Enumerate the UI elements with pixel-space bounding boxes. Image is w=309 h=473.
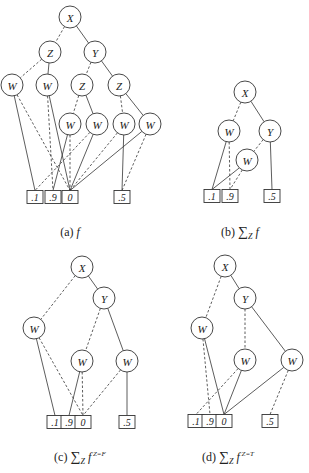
variable-node-z: Z xyxy=(108,74,130,96)
terminal-value: .1 xyxy=(192,416,200,427)
terminal-value-box: .5 xyxy=(264,190,280,203)
false-branch-edge xyxy=(206,276,221,317)
terminal-value: .9 xyxy=(226,191,234,202)
node-label: W xyxy=(92,119,102,131)
variable-node-w: W xyxy=(113,113,135,135)
node-label: W xyxy=(122,356,132,368)
node-label: W xyxy=(7,80,17,92)
terminal-value: .9 xyxy=(65,417,73,428)
diagram-panel-a: XZYWWZZWWWW.1.90.5(a) f xyxy=(1,6,161,239)
true-branch-edge xyxy=(49,96,70,191)
terminal-value-box: 0 xyxy=(216,415,232,428)
node-label: W xyxy=(119,119,129,131)
terminal-value-box: .9 xyxy=(45,191,61,204)
false-branch-edge xyxy=(254,140,263,152)
node-label: Z xyxy=(79,80,86,92)
diagram-panel-b: XWYW.1.9.5(b) ∑Z f xyxy=(204,81,281,241)
terminal-value-box: .1 xyxy=(27,191,43,204)
false-branch-edge xyxy=(230,170,242,190)
terminal-value: .9 xyxy=(49,192,57,203)
node-label: W xyxy=(197,323,207,335)
variable-node-y: Y xyxy=(259,120,281,142)
node-label: W xyxy=(77,356,87,368)
true-branch-edge xyxy=(251,101,264,121)
terminal-value: .5 xyxy=(268,191,276,202)
true-branch-edge xyxy=(101,61,112,76)
node-label: W xyxy=(242,155,252,167)
node-label: W xyxy=(240,355,250,367)
terminal-value-box: 0 xyxy=(62,191,78,204)
variable-node-z: Z xyxy=(39,41,61,63)
node-label: X xyxy=(241,87,250,99)
node-label: W xyxy=(42,80,52,92)
true-branch-edge xyxy=(252,307,286,351)
true-branch-edge xyxy=(86,95,93,113)
variable-node-w: W xyxy=(116,350,138,372)
node-label: X xyxy=(66,12,75,24)
variable-node-w: W xyxy=(36,74,58,96)
terminal-value-box: .5 xyxy=(262,415,278,428)
variable-node-x: X xyxy=(71,256,93,278)
variable-node-w: W xyxy=(1,74,23,96)
node-label: W xyxy=(29,323,39,335)
false-branch-edge xyxy=(20,59,41,78)
edges xyxy=(212,101,272,189)
true-branch-edge xyxy=(122,135,124,191)
node-label: W xyxy=(287,355,297,367)
panel-caption: (c) ∑Z f Z=F xyxy=(54,449,106,466)
true-branch-edge xyxy=(88,276,97,289)
false-branch-edge xyxy=(83,370,121,416)
true-branch-edge xyxy=(48,63,49,74)
true-branch-edge xyxy=(108,308,123,350)
node-label: X xyxy=(78,262,87,274)
variable-node-w: W xyxy=(139,113,161,135)
variable-node-y: Y xyxy=(84,41,106,63)
true-branch-edge xyxy=(70,134,93,190)
terminal-value: .5 xyxy=(118,192,126,203)
variable-node-z: Z xyxy=(71,74,93,96)
variable-node-w: W xyxy=(86,113,108,135)
false-branch-edge xyxy=(82,372,83,416)
variable-node-w: W xyxy=(71,350,93,372)
variable-node-y: Y xyxy=(234,287,256,309)
terminal-value: .1 xyxy=(31,192,39,203)
variable-node-x: X xyxy=(214,255,236,277)
false-branch-edge xyxy=(70,133,117,191)
variable-node-x: X xyxy=(59,6,81,28)
terminal-value: 0 xyxy=(222,416,227,427)
variable-node-w: W xyxy=(234,349,256,371)
false-branch-edge xyxy=(270,370,288,414)
variable-node-w: W xyxy=(218,120,240,142)
true-branch-edge xyxy=(70,131,142,190)
terminal-value: 0 xyxy=(68,192,73,203)
terminal-value-box: .5 xyxy=(114,191,130,204)
true-branch-edge xyxy=(76,26,88,43)
true-branch-edge xyxy=(270,142,272,190)
node-label: Z xyxy=(47,47,54,59)
variable-node-x: X xyxy=(234,81,256,103)
decision-diagram-figure: XZYWWZZWWWW.1.90.5(a) fXWYW.1.9.5(b) ∑Z … xyxy=(0,0,309,473)
terminal-value: .5 xyxy=(123,417,131,428)
diagram-panel-d: XYWWW.1.90.5(d) ∑Z f Z=T xyxy=(188,255,303,466)
node-label: X xyxy=(221,261,230,273)
terminal-value-box: 0 xyxy=(75,416,91,429)
variable-node-w: W xyxy=(281,349,303,371)
false-branch-edge xyxy=(120,96,122,113)
false-branch-edge xyxy=(86,62,91,75)
terminal-value: .9 xyxy=(206,416,214,427)
variable-node-y: Y xyxy=(93,287,115,309)
false-branch-edge xyxy=(233,102,241,121)
terminal-value-box: .9 xyxy=(222,190,238,203)
false-branch-edge xyxy=(41,276,75,320)
node-label: Z xyxy=(116,80,123,92)
terminal-value: 0 xyxy=(81,417,86,428)
false-branch-edge xyxy=(229,142,230,190)
terminal-value: .1 xyxy=(51,417,59,428)
variable-node-w: W xyxy=(191,317,213,339)
false-branch-edge xyxy=(86,308,101,350)
panel-caption: (a) f xyxy=(60,225,81,239)
terminal-value: .5 xyxy=(266,416,274,427)
node-label: W xyxy=(65,119,75,131)
variable-node-w: W xyxy=(59,113,81,135)
edges xyxy=(14,26,146,191)
